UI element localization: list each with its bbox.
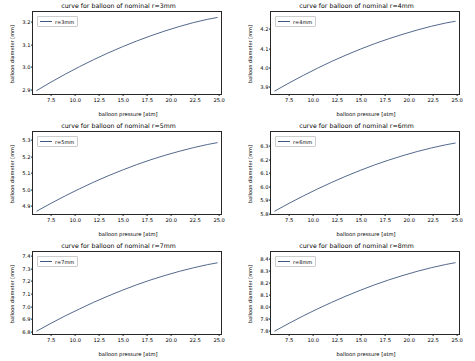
y-axis-tick-mark <box>269 146 271 147</box>
x-axis-tick-label: 20.0 <box>165 337 177 343</box>
x-axis-tick-label: 15.0 <box>355 217 367 223</box>
x-axis-tick-mark <box>171 94 172 96</box>
x-axis-tick-label: 17.5 <box>141 217 153 223</box>
x-axis-tick-label: 15.0 <box>117 217 129 223</box>
x-axis-tick-mark <box>433 214 434 216</box>
y-axis-tick-mark <box>269 319 271 320</box>
y-axis-tick-mark <box>269 87 271 88</box>
x-axis-tick-mark <box>219 214 220 216</box>
y-axis-tick-mark <box>31 294 33 295</box>
x-axis-tick-mark <box>385 94 386 96</box>
y-axis-tick-label: 3.9 <box>260 84 268 90</box>
y-axis-tick-mark <box>269 283 271 284</box>
x-axis-tick-label: 15.0 <box>355 97 367 103</box>
chart-panel: curve for balloon of nominal r=6mm5.85.9… <box>238 120 475 240</box>
x-axis-tick-mark <box>99 334 100 336</box>
legend-line-swatch <box>40 21 52 22</box>
y-axis-tick-label: 4.2 <box>260 26 268 32</box>
panel-title: curve for balloon of nominal r=7mm <box>0 242 237 249</box>
x-axis-tick-mark <box>147 334 148 336</box>
x-axis-tick-label: 25.0 <box>213 97 225 103</box>
y-axis-tick-label: 6.8 <box>22 329 30 335</box>
panel-title: curve for balloon of nominal r=3mm <box>0 2 237 9</box>
x-axis-tick-mark <box>337 214 338 216</box>
x-axis-tick-mark <box>433 94 434 96</box>
x-axis-tick-mark <box>75 334 76 336</box>
plot-area: 4.95.05.15.25.37.510.012.515.017.520.022… <box>32 131 222 215</box>
y-axis-tick-mark <box>31 268 33 269</box>
y-axis-label: balloon diameter [mm] <box>245 252 255 336</box>
x-axis-tick-mark <box>409 94 410 96</box>
x-axis-tick-label: 12.5 <box>331 337 343 343</box>
y-axis-tick-label: 4.9 <box>22 203 30 209</box>
x-axis-tick-mark <box>123 94 124 96</box>
x-axis-tick-label: 17.5 <box>379 217 391 223</box>
y-axis-label: balloon diameter [mm] <box>245 12 255 96</box>
x-axis-tick-mark <box>313 334 314 336</box>
y-axis-tick-mark <box>31 189 33 190</box>
x-axis-tick-label: 7.5 <box>47 337 55 343</box>
y-axis-tick-label: 4.1 <box>260 46 268 52</box>
x-axis-tick-label: 22.5 <box>189 337 201 343</box>
x-axis-tick-mark <box>99 94 100 96</box>
y-axis-label: balloon diameter [mm] <box>7 252 17 336</box>
y-axis-tick-label: 6.9 <box>22 316 30 322</box>
y-axis-tick-label: 3.2 <box>22 19 30 25</box>
x-axis-tick-mark <box>51 94 52 96</box>
y-axis-tick-label: 7.8 <box>260 328 268 334</box>
y-axis-tick-label: 7.0 <box>22 304 30 310</box>
legend-label: r=5mm <box>55 139 74 145</box>
y-axis-tick-mark <box>269 307 271 308</box>
x-axis-tick-label: 25.0 <box>213 337 225 343</box>
y-axis-tick-mark <box>269 213 271 214</box>
legend: r=4mm <box>275 16 316 27</box>
panel-title: curve for balloon of nominal r=4mm <box>238 2 475 9</box>
legend-line-swatch <box>40 261 52 262</box>
x-axis-tick-label: 12.5 <box>93 217 105 223</box>
y-axis-tick-label: 8.1 <box>260 292 268 298</box>
y-axis-tick-mark <box>269 29 271 30</box>
x-axis-tick-mark <box>457 334 458 336</box>
y-axis-tick-label: 5.3 <box>22 137 30 143</box>
y-axis-tick-mark <box>269 68 271 69</box>
x-axis-tick-mark <box>409 334 410 336</box>
x-axis-label: balloon pressure [atm] <box>271 231 461 237</box>
y-axis-tick-label: 3.0 <box>22 64 30 70</box>
x-axis-tick-mark <box>385 214 386 216</box>
chart-panel: curve for balloon of nominal r=5mm4.95.0… <box>0 120 237 240</box>
x-axis-tick-label: 25.0 <box>451 217 463 223</box>
x-axis-tick-label: 10.0 <box>307 337 319 343</box>
x-axis-tick-mark <box>147 214 148 216</box>
chart-panel: curve for balloon of nominal r=3mm2.93.0… <box>0 0 237 120</box>
y-axis-tick-label: 7.1 <box>22 291 30 297</box>
legend-line-swatch <box>40 141 52 142</box>
plot-area: 5.85.96.06.16.26.37.510.012.515.017.520.… <box>270 131 460 215</box>
x-axis-tick-mark <box>147 94 148 96</box>
legend: r=6mm <box>275 136 316 147</box>
x-axis-tick-mark <box>195 334 196 336</box>
y-axis-tick-mark <box>31 281 33 282</box>
x-axis-tick-label: 22.5 <box>427 97 439 103</box>
y-axis-tick-label: 7.4 <box>22 253 30 259</box>
y-axis-tick-label: 2.9 <box>22 87 30 93</box>
y-axis-tick-label: 7.9 <box>260 316 268 322</box>
y-axis-tick-label: 7.2 <box>22 278 30 284</box>
x-axis-tick-mark <box>361 334 362 336</box>
x-axis-tick-label: 7.5 <box>285 337 293 343</box>
x-axis-tick-mark <box>51 214 52 216</box>
y-axis-tick-mark <box>31 67 33 68</box>
x-axis-tick-mark <box>385 334 386 336</box>
y-axis-tick-mark <box>269 48 271 49</box>
x-axis-tick-label: 22.5 <box>189 97 201 103</box>
x-axis-tick-mark <box>219 94 220 96</box>
x-axis-tick-label: 17.5 <box>379 97 391 103</box>
x-axis-tick-label: 20.0 <box>403 97 415 103</box>
y-axis-tick-mark <box>269 200 271 201</box>
y-axis-tick-label: 8.0 <box>260 304 268 310</box>
y-axis-tick-label: 4.0 <box>260 65 268 71</box>
y-axis-tick-mark <box>269 271 271 272</box>
x-axis-tick-mark <box>457 214 458 216</box>
x-axis-tick-label: 12.5 <box>331 97 343 103</box>
x-axis-tick-mark <box>195 214 196 216</box>
x-axis-tick-label: 10.0 <box>307 217 319 223</box>
